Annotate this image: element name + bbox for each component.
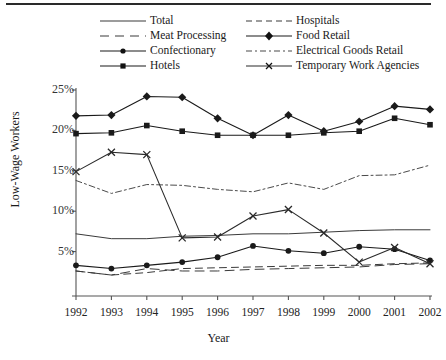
series-food-retail [72, 92, 434, 139]
data-point-confectionary [73, 262, 79, 268]
series-line-confectionary [76, 246, 430, 269]
data-point-confectionary [250, 243, 256, 249]
x-axis-tick-label: 1999 [304, 306, 344, 318]
data-point-hotels [109, 130, 115, 136]
series-total [76, 230, 430, 239]
data-point-confectionary [144, 262, 150, 268]
x-axis-tick-label: 1997 [233, 306, 273, 318]
data-point-food-retail [426, 105, 434, 113]
data-point-hotels [179, 128, 185, 134]
data-point-food-retail [143, 92, 151, 100]
data-point-hotels [215, 132, 221, 138]
data-point-confectionary [286, 248, 292, 254]
x-axis-tick-label: 2000 [339, 306, 379, 318]
y-axis-tick-label: 25% [34, 82, 74, 97]
y-axis-tick-label: 10% [34, 203, 74, 218]
data-point-hotels [356, 128, 362, 134]
data-point-confectionary [356, 244, 362, 250]
data-point-hotels [144, 123, 150, 129]
data-point-food-retail [214, 114, 222, 122]
y-axis-title: Low-Wage Workers [8, 100, 23, 220]
x-axis-tick-label: 2001 [375, 306, 415, 318]
series-line-total [76, 230, 430, 239]
data-point-food-retail [178, 93, 186, 101]
data-point-food-retail [320, 127, 328, 135]
data-point-temporary-work-agencies [356, 259, 363, 266]
data-point-hotels [392, 115, 398, 121]
y-axis-tick-label: 5% [34, 244, 74, 259]
series-line-electrical-goods-retail [76, 165, 430, 193]
data-point-food-retail [284, 111, 292, 119]
data-point-food-retail [249, 131, 257, 139]
x-axis-tick-label: 1994 [127, 306, 167, 318]
data-point-confectionary [109, 266, 115, 272]
x-axis-tick-label: 1992 [56, 306, 96, 318]
x-axis-tick-label: 2002 [410, 306, 446, 318]
y-axis-tick-label: 20% [34, 122, 74, 137]
x-axis-tick-label: 1993 [91, 306, 131, 318]
x-axis-tick-label: 1998 [268, 306, 308, 318]
data-point-confectionary [179, 259, 185, 265]
x-axis-tick-label: 1996 [198, 306, 238, 318]
series-confectionary [73, 243, 433, 271]
data-point-temporary-work-agencies [320, 230, 327, 237]
data-point-food-retail [355, 117, 363, 125]
data-point-food-retail [391, 102, 399, 110]
x-axis-tick-label: 1995 [162, 306, 202, 318]
data-point-hotels [427, 122, 433, 128]
series-electrical-goods-retail [76, 165, 430, 193]
x-axis-title: Year [0, 331, 437, 346]
data-point-hotels [73, 131, 79, 137]
series-line-hospitals [76, 263, 430, 275]
data-point-confectionary [215, 254, 221, 260]
x-axis-tick-labels: 1992199319941995199619971998199920002001… [0, 302, 437, 320]
data-point-food-retail [107, 111, 115, 119]
series-hospitals [76, 263, 430, 275]
data-point-confectionary [321, 250, 327, 256]
y-axis-tick-label: 15% [34, 163, 74, 178]
series-temporary-work-agencies [73, 149, 434, 268]
data-point-hotels [286, 132, 292, 138]
data-point-food-retail [72, 112, 80, 120]
